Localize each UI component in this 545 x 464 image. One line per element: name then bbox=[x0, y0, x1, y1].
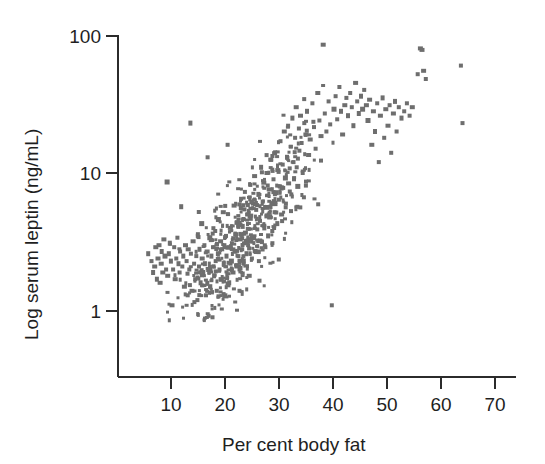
data-point bbox=[223, 204, 227, 208]
data-point bbox=[328, 122, 332, 126]
data-point bbox=[253, 158, 256, 161]
data-point bbox=[219, 248, 223, 251]
data-point bbox=[282, 211, 285, 214]
data-point bbox=[221, 210, 226, 214]
data-point bbox=[402, 109, 406, 113]
data-point bbox=[250, 228, 253, 231]
data-point bbox=[287, 159, 290, 162]
data-point bbox=[210, 278, 213, 281]
data-point bbox=[239, 200, 242, 203]
data-point bbox=[302, 97, 306, 101]
data-point bbox=[305, 109, 309, 114]
data-point bbox=[276, 150, 280, 153]
scatter-plot-figure: 100 10 1 10 20 30 40 50 60 70 Per cent b… bbox=[0, 0, 545, 464]
data-point bbox=[282, 114, 286, 117]
data-point bbox=[389, 151, 393, 155]
data-point bbox=[284, 205, 288, 209]
data-point bbox=[159, 262, 164, 266]
data-point bbox=[151, 270, 155, 275]
data-point bbox=[258, 197, 261, 200]
data-point bbox=[218, 303, 221, 306]
data-point bbox=[268, 262, 272, 265]
data-point bbox=[189, 265, 193, 268]
data-point bbox=[292, 176, 296, 179]
data-point bbox=[251, 206, 254, 209]
data-point bbox=[421, 69, 426, 73]
data-point bbox=[182, 285, 187, 289]
data-point bbox=[208, 265, 212, 268]
data-point bbox=[225, 273, 228, 277]
data-point bbox=[400, 116, 404, 121]
data-point bbox=[275, 155, 279, 158]
data-point bbox=[246, 268, 249, 271]
data-point bbox=[297, 127, 301, 131]
data-point bbox=[323, 112, 327, 116]
data-point bbox=[391, 112, 396, 116]
data-point bbox=[294, 147, 298, 150]
data-point bbox=[260, 170, 264, 174]
data-point bbox=[191, 239, 196, 243]
data-point bbox=[386, 124, 391, 128]
data-point bbox=[294, 105, 299, 109]
data-point bbox=[461, 121, 465, 125]
data-point bbox=[233, 243, 236, 246]
data-point bbox=[198, 289, 201, 292]
data-point bbox=[166, 311, 169, 314]
data-point bbox=[211, 315, 215, 319]
data-point bbox=[166, 291, 170, 294]
data-point bbox=[424, 77, 428, 81]
data-point bbox=[216, 193, 220, 196]
data-point bbox=[364, 103, 369, 107]
data-point bbox=[241, 243, 245, 247]
data-point bbox=[265, 153, 269, 157]
data-point bbox=[178, 271, 182, 275]
data-point bbox=[258, 140, 262, 143]
data-point bbox=[355, 99, 359, 103]
data-point bbox=[393, 99, 397, 104]
data-point bbox=[304, 184, 308, 188]
data-point bbox=[260, 240, 264, 244]
data-point bbox=[261, 203, 264, 206]
data-point bbox=[204, 279, 208, 282]
data-point bbox=[332, 107, 337, 112]
data-point bbox=[197, 235, 201, 239]
data-point bbox=[163, 254, 168, 259]
data-point bbox=[360, 107, 365, 112]
data-point bbox=[383, 107, 388, 111]
data-point bbox=[152, 265, 157, 269]
data-point bbox=[169, 243, 172, 246]
data-point bbox=[204, 288, 208, 291]
data-point bbox=[266, 233, 270, 238]
data-point bbox=[371, 109, 376, 113]
data-point bbox=[234, 202, 237, 206]
data-point bbox=[226, 282, 230, 286]
data-point bbox=[211, 238, 214, 242]
data-point bbox=[150, 259, 154, 263]
data-point bbox=[198, 247, 202, 252]
data-point bbox=[262, 200, 265, 203]
data-point bbox=[293, 150, 297, 154]
data-point bbox=[242, 259, 246, 263]
data-point bbox=[339, 109, 343, 114]
data-point bbox=[304, 134, 307, 137]
y-tick-label-1: 1 bbox=[90, 301, 101, 322]
data-point bbox=[238, 224, 241, 227]
x-tick-label-60: 60 bbox=[430, 394, 451, 415]
data-point bbox=[285, 173, 288, 176]
data-point bbox=[164, 268, 168, 272]
data-point bbox=[243, 232, 246, 236]
data-point bbox=[253, 227, 256, 230]
data-point bbox=[397, 105, 401, 109]
data-point bbox=[340, 133, 345, 137]
data-point bbox=[310, 101, 314, 105]
data-point bbox=[230, 247, 233, 251]
data-point bbox=[185, 259, 189, 263]
x-tick-label-50: 50 bbox=[376, 394, 397, 415]
data-point bbox=[243, 265, 246, 268]
data-point bbox=[300, 193, 303, 197]
data-point bbox=[321, 43, 326, 47]
data-point bbox=[205, 226, 208, 229]
x-tick-label-20: 20 bbox=[214, 394, 235, 415]
data-point bbox=[395, 130, 399, 134]
data-point bbox=[220, 294, 223, 297]
